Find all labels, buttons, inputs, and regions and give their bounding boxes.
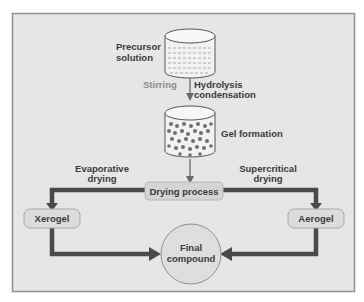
- condensation-label: condensation: [194, 89, 256, 100]
- drying-process-label: Drying process: [149, 186, 218, 197]
- gel-beaker-icon: [165, 106, 215, 157]
- precursor-beaker-icon: [165, 29, 215, 78]
- precursor-label: Precursor: [116, 41, 161, 52]
- aerogel-label: Aerogel: [298, 213, 333, 224]
- final-label: Final: [180, 242, 202, 253]
- supercritical-label-2: drying: [253, 173, 282, 184]
- xerogel-label: Xerogel: [35, 213, 70, 224]
- gel-formation-label: Gel formation: [221, 128, 283, 139]
- evaporative-label-2: drying: [87, 173, 116, 184]
- sol-gel-diagram: Precursor solution Stirring Hydrolysis c…: [0, 0, 364, 302]
- compound-label: compound: [167, 253, 216, 264]
- stirring-label: Stirring: [143, 79, 177, 90]
- precursor-label-2: solution: [116, 52, 153, 63]
